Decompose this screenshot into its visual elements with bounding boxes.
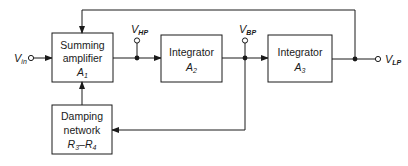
vin-label: Vin <box>14 52 27 65</box>
damping-label-1: Damping <box>61 110 103 122</box>
summing-amplifier-block: Summing amplifier A1 <box>52 33 113 82</box>
vhp-label: VHP <box>131 23 148 36</box>
damping-label-2: network <box>64 124 102 136</box>
summing-label-1: Summing <box>60 39 105 51</box>
vbp-terminal-circle <box>242 38 247 43</box>
block-diagram: Vin Summing amplifier A1 VHP Integrator … <box>0 0 408 166</box>
input-terminal: Vin <box>14 52 52 65</box>
a3-label: Integrator <box>278 46 323 58</box>
vbp-label: VBP <box>239 23 256 36</box>
a2-label: Integrator <box>169 46 214 58</box>
damping-symbol: R3–R4 <box>68 138 97 151</box>
vlp-terminal-circle <box>375 56 380 61</box>
integrator-a3-block: Integrator A3 <box>268 35 332 82</box>
vhp-terminal-circle <box>134 38 139 43</box>
integrator-a2-block: Integrator A2 <box>161 35 222 82</box>
damping-network-block: Damping network R3–R4 <box>52 105 112 154</box>
vin-terminal-circle <box>28 55 33 60</box>
summing-label-2: amplifier <box>63 52 103 64</box>
vlp-label: VLP <box>385 53 402 66</box>
